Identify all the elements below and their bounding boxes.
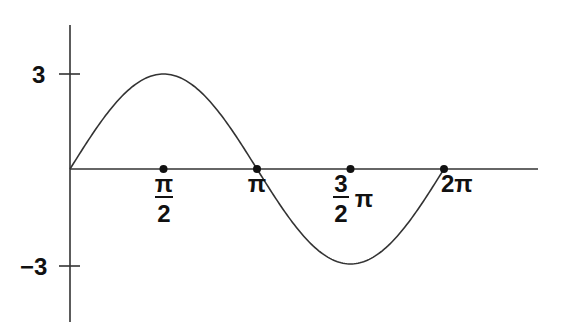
x-label-half-pi-denominator: 2 bbox=[157, 200, 170, 227]
x-label-half-pi-numerator: π bbox=[155, 170, 173, 197]
x-label-three-half-pi: π bbox=[355, 185, 373, 212]
sine-graph: 3 −3 π 2 π 3 2 π 2π bbox=[0, 0, 566, 325]
y-label-3: 3 bbox=[32, 61, 45, 88]
x-label-three-half-numerator: 3 bbox=[334, 170, 347, 197]
x-axis-marker-dot bbox=[347, 165, 355, 173]
x-label-three-half-denominator: 2 bbox=[334, 200, 347, 227]
y-label-neg3: −3 bbox=[20, 253, 47, 280]
x-label-pi: π bbox=[248, 170, 266, 197]
x-label-two-pi: 2π bbox=[441, 170, 473, 197]
